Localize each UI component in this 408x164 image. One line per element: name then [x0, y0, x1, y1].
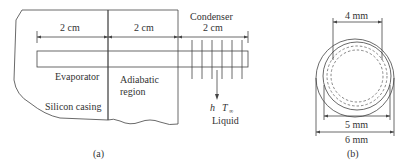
dim-4mm-arrow-l: [333, 21, 337, 24]
dim-5mm-label: 5 mm: [345, 119, 368, 130]
dim-arrow-4: [174, 36, 178, 39]
dashed-circle-inner: [331, 50, 383, 102]
dim-6mm-arrow-r: [390, 131, 394, 134]
t-subscript: ∞: [229, 108, 233, 114]
dim-arrow-5: [178, 36, 182, 39]
dim-5mm-arrow-l: [324, 115, 328, 118]
t-label: T: [222, 102, 229, 113]
figure-a-caption: (a): [93, 148, 104, 160]
dim-arrow-3: [108, 36, 112, 39]
convection-arrowhead: [215, 94, 219, 100]
liquid-label: Liquid: [212, 115, 239, 126]
h-label: h: [210, 102, 215, 113]
figure-b: 4 mm 5 mm 6 mm (b): [316, 10, 394, 160]
casing-label: Silicon casing: [45, 101, 101, 112]
condenser-title: Condenser: [190, 11, 233, 22]
condenser-length-label: 2 cm: [203, 22, 223, 33]
dim-arrow-1: [37, 36, 41, 39]
dim-arrow-2: [104, 36, 108, 39]
dim-5mm-arrow-r: [386, 115, 390, 118]
dim-6mm-arrow-l: [316, 131, 320, 134]
adiabatic-length-label: 2 cm: [134, 22, 154, 33]
figure-b-caption: (b): [347, 148, 359, 160]
heat-pipe-diagram: 2 cm 2 cm Condenser 2 cm Evaporator Adia…: [0, 0, 408, 164]
adiabatic-label-line2: region: [120, 86, 146, 97]
heat-pipe-tube: [37, 51, 248, 67]
evaporator-length-label: 2 cm: [60, 22, 80, 33]
dim-4mm-label: 4 mm: [345, 10, 368, 21]
figure-a: 2 cm 2 cm Condenser 2 cm Evaporator Adia…: [14, 10, 248, 160]
dim-4mm-arrow-r: [378, 21, 382, 24]
adiabatic-label-line1: Adiabatic: [120, 74, 159, 85]
dim-arrow-6: [244, 36, 248, 39]
dashed-circle-outer: [327, 46, 387, 106]
dim-6mm-label: 6 mm: [345, 134, 368, 145]
evaporator-label: Evaporator: [55, 71, 100, 82]
